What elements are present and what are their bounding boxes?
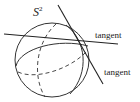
sphere-label: S2 [33, 5, 43, 19]
sphere-superscript: 2 [39, 5, 43, 13]
equator-front-arc [16, 43, 88, 66]
tangent-label-1: tangent [95, 30, 122, 40]
sphere-outline [15, 23, 89, 97]
meridian-back-arc [37, 24, 56, 97]
sphere-diagram: S2 tangent tangent [0, 0, 140, 102]
equator-back-arc [18, 50, 88, 75]
tangent-label-2: tangent [104, 67, 131, 77]
tangent-line-2 [58, 5, 103, 84]
